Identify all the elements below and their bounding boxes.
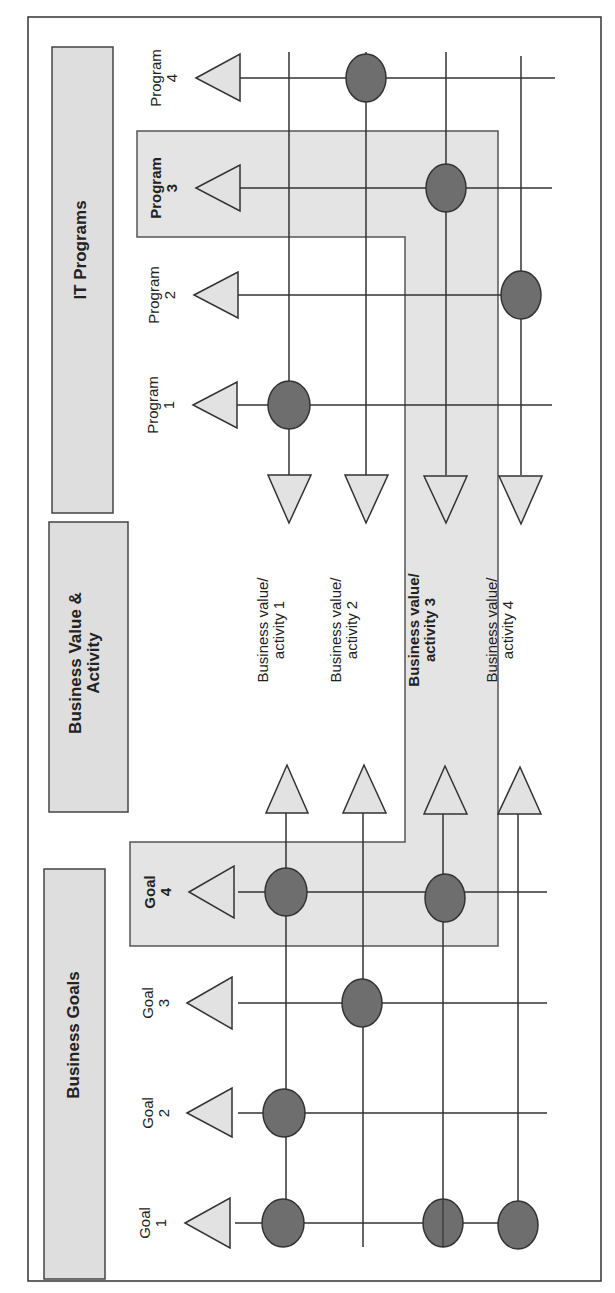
node-goal2-bv1 [263, 1089, 305, 1137]
business-goals-label: Business Goals [65, 935, 83, 1135]
goal-2-triangle [187, 1088, 232, 1137]
business-value-label: Business Value & Activity [67, 553, 103, 773]
node-program2-bv4 [501, 271, 541, 319]
goal-2-label: Goal2 [140, 1073, 172, 1153]
node-goal1-bv1 [262, 1199, 304, 1247]
bv2-out-triangle [343, 765, 386, 813]
node-goal1-bv4 [498, 1201, 538, 1249]
bv4-in-triangle [499, 476, 542, 524]
goal-3-triangle [187, 977, 232, 1029]
goal-1-triangle [185, 1198, 230, 1248]
it-programs-label: IT Programs [72, 180, 90, 320]
program-4-label: Program4 [148, 28, 180, 128]
node-goal3-bv2 [342, 979, 382, 1027]
program-4-triangle [196, 54, 240, 101]
node-goal4-bv1 [265, 868, 307, 916]
goal-1-label: Goal1 [137, 1183, 169, 1263]
program-1-label: Program1 [145, 355, 177, 455]
goal-4-label: Goal4 [142, 852, 174, 932]
program-3-label: Program3 [148, 138, 180, 238]
program-2-label: Program2 [146, 245, 178, 345]
program-1-triangle [193, 382, 237, 428]
node-program4-bv2 [346, 54, 386, 102]
bv1-in-triangle [268, 475, 311, 523]
program-2-triangle [194, 272, 238, 318]
node-program1-bv1 [268, 381, 310, 429]
bv3-label: Business value/activity 3 [406, 540, 438, 720]
node-goal4-bv3 [425, 874, 465, 922]
bv2-in-triangle [345, 475, 388, 523]
goal-3-label: Goal3 [140, 963, 172, 1043]
bv1-out-triangle [266, 765, 308, 813]
bv2-label: Business value/activity 2 [328, 540, 360, 720]
bv4-out-triangle [498, 767, 541, 814]
bv4-label: Business value/activity 4 [484, 540, 516, 720]
bv1-label: Business value/activity 1 [255, 540, 287, 720]
node-program3-bv3 [426, 164, 466, 212]
